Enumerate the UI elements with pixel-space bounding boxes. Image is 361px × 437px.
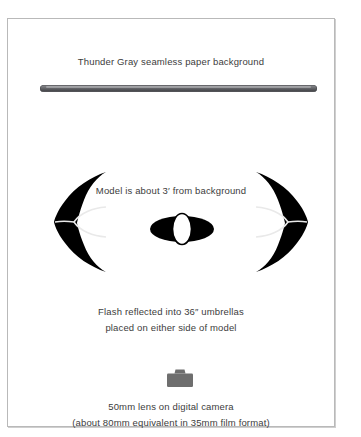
umbrella-caption-line1: Flash reflected into 36″ umbrellas xyxy=(8,304,334,319)
camera-caption-line1: 50mm lens on digital camera xyxy=(8,399,334,414)
camera-icon xyxy=(164,369,196,391)
umbrella-caption-line2: placed on either side of model xyxy=(8,320,334,335)
left-umbrella-icon xyxy=(53,171,107,273)
model-overhead-figure xyxy=(149,211,215,247)
camera-caption-line2: (about 80mm equivalent in 35mm film form… xyxy=(8,415,334,430)
lighting-diagram-page: Thunder Gray seamless paper background M… xyxy=(0,0,361,437)
seamless-paper-backdrop xyxy=(40,85,317,92)
right-umbrella-icon xyxy=(255,171,309,273)
backdrop-caption: Thunder Gray seamless paper background xyxy=(8,54,334,69)
figure-frame: Thunder Gray seamless paper background M… xyxy=(7,18,335,427)
